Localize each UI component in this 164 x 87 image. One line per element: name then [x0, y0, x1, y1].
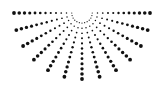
dot [148, 11, 152, 15]
dot [68, 56, 71, 59]
dot [44, 12, 46, 14]
dot [104, 25, 106, 27]
dot [117, 47, 120, 50]
dot [45, 32, 48, 35]
dot [76, 21, 77, 22]
dot [68, 20, 69, 21]
dot [57, 51, 60, 54]
dot [109, 60, 112, 63]
dot [94, 60, 97, 63]
dot [30, 25, 33, 28]
dot [63, 30, 65, 32]
dot [39, 12, 42, 15]
dot [40, 51, 43, 54]
dot [61, 17, 63, 19]
dot [107, 55, 110, 58]
dot [46, 21, 48, 23]
dot [87, 32, 89, 34]
dot [73, 41, 75, 43]
dot [81, 47, 83, 49]
dot [98, 75, 102, 79]
dot [34, 12, 37, 15]
dot [126, 37, 129, 40]
dot [108, 27, 110, 29]
dot [112, 64, 116, 68]
dot [135, 42, 139, 46]
dot [60, 12, 62, 14]
dot [35, 37, 38, 40]
sunburst-graphic [0, 0, 164, 87]
dot [114, 68, 118, 72]
dot [90, 46, 92, 48]
dot [92, 30, 94, 32]
dot [97, 12, 98, 13]
dot [116, 21, 118, 23]
dot [68, 34, 70, 36]
dot [73, 17, 74, 18]
dot [21, 44, 25, 48]
dot [93, 56, 96, 59]
dot [111, 20, 113, 22]
dot [136, 26, 139, 29]
dot [117, 32, 120, 35]
dot [146, 28, 150, 32]
dot [66, 12, 67, 13]
dot [101, 17, 103, 19]
dot [138, 11, 141, 14]
dot [79, 22, 80, 23]
dot [84, 22, 85, 23]
dot [91, 15, 92, 16]
dot [125, 54, 129, 58]
dot [133, 11, 136, 14]
dot [121, 34, 124, 37]
dot [35, 23, 38, 26]
dot [117, 12, 119, 14]
dot [70, 23, 71, 24]
dot [74, 37, 76, 39]
dot [96, 26, 98, 28]
dot [65, 38, 67, 40]
dot [89, 41, 91, 43]
dot [97, 38, 99, 40]
dot [67, 60, 70, 63]
dot [17, 11, 21, 15]
dot [99, 30, 101, 32]
dot [63, 43, 65, 45]
dot [81, 42, 83, 44]
dot [112, 30, 114, 32]
dot [46, 68, 50, 72]
dot [128, 12, 131, 15]
dot [74, 25, 75, 26]
dot [87, 21, 88, 22]
dot [94, 34, 96, 36]
dot [63, 22, 65, 24]
dot [70, 51, 73, 54]
dot [81, 37, 83, 39]
dot [44, 47, 47, 50]
dot [92, 12, 93, 13]
dot [28, 11, 31, 14]
dot [71, 15, 72, 16]
dot [92, 23, 93, 24]
dot [49, 64, 53, 68]
dot [54, 55, 57, 58]
dot [65, 65, 68, 68]
dot [81, 32, 83, 34]
dot [114, 44, 117, 47]
dot [77, 27, 78, 28]
dot [51, 20, 53, 22]
dot [81, 22, 82, 23]
dot [80, 77, 84, 81]
dot [131, 25, 134, 28]
dot [99, 43, 101, 45]
dot [121, 51, 124, 54]
dot [12, 11, 16, 15]
dot [112, 12, 114, 14]
dot [32, 58, 36, 62]
dot [64, 70, 68, 74]
dot [71, 12, 72, 13]
dot [50, 12, 52, 14]
dot [20, 27, 24, 31]
dot [99, 22, 101, 24]
dot [76, 32, 78, 34]
